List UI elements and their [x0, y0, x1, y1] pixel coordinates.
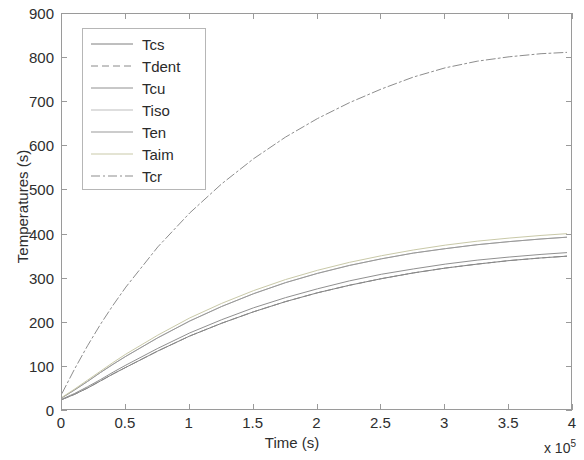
legend-label: Tdent	[142, 59, 180, 74]
legend-line-sample-icon	[89, 39, 135, 49]
y-tick-label: 800	[8, 50, 54, 65]
legend-line-sample-icon	[89, 171, 135, 181]
legend-label: Tcu	[142, 81, 165, 96]
x-tick-label: 3	[424, 415, 464, 430]
legend-label: Taim	[142, 147, 174, 162]
series-line-taim	[62, 234, 567, 398]
x-axis-exponent-label: x 105	[544, 438, 576, 456]
legend-item-taim[interactable]: Taim	[83, 143, 205, 165]
x-tick-label: 0	[41, 415, 81, 430]
legend-line-sample-icon	[89, 149, 135, 159]
x-tick-label: 1.5	[233, 415, 273, 430]
x-tick-label: 1	[169, 415, 209, 430]
legend-label: Tcs	[142, 37, 165, 52]
x-tick-label: 0.5	[105, 415, 145, 430]
series-line-tcs	[62, 256, 567, 399]
x-axis-title: Time (s)	[0, 434, 584, 451]
x-tick-label: 3.5	[488, 415, 528, 430]
legend-line-sample-icon	[89, 83, 135, 93]
matlab-figure-chart: 0100200300400500600700800900 00.511.522.…	[0, 0, 584, 460]
legend-item-tdent[interactable]: Tdent	[83, 55, 205, 77]
exponent-mantissa: x 10	[544, 440, 570, 456]
series-line-ten	[62, 237, 567, 398]
legend-line-sample-icon	[89, 61, 135, 71]
y-tick-label: 200	[8, 315, 54, 330]
legend-item-ten[interactable]: Ten	[83, 121, 205, 143]
legend-line-sample-icon	[89, 105, 135, 115]
legend-label: Ten	[142, 125, 166, 140]
legend-label: Tiso	[142, 103, 170, 118]
legend-item-tcs[interactable]: Tcs	[83, 33, 205, 55]
y-tick-label: 100	[8, 359, 54, 374]
legend-line-sample-icon	[89, 127, 135, 137]
legend-label: Tcr	[142, 169, 162, 184]
chart-legend: TcsTdentTcuTisoTenTaimTcr	[82, 28, 206, 190]
x-tick-label: 2	[297, 415, 337, 430]
legend-item-tcu[interactable]: Tcu	[83, 77, 205, 99]
legend-item-tiso[interactable]: Tiso	[83, 99, 205, 121]
y-tick-label: 700	[8, 94, 54, 109]
series-line-tdent	[62, 256, 567, 399]
y-tick-label: 900	[8, 6, 54, 21]
legend-item-tcr[interactable]: Tcr	[83, 165, 205, 187]
x-tick-label: 2.5	[360, 415, 400, 430]
series-line-tiso	[62, 237, 567, 398]
y-axis-title: Temperatures (s)	[14, 127, 31, 287]
x-tick-label: 4	[552, 415, 584, 430]
exponent-power: 5	[570, 438, 576, 449]
